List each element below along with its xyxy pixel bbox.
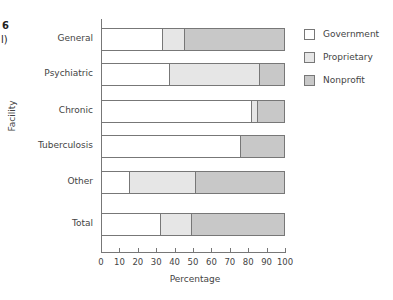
legend-item-proprietary: Proprietary: [304, 51, 379, 63]
x-axis-line: [101, 252, 286, 253]
x-tick-label: 100: [273, 257, 297, 267]
bar-segment-government: [102, 101, 251, 122]
bar-segment-government: [102, 136, 240, 157]
caption-fragment-2: l): [1, 34, 8, 45]
bar-segment-proprietary: [169, 64, 258, 85]
x-tick: [248, 248, 249, 252]
category-label: Psychiatric: [44, 68, 93, 78]
stacked-bar: [101, 213, 285, 236]
category-label: Other: [67, 176, 93, 186]
legend: Government Proprietary Nonprofit: [304, 28, 379, 97]
bar-segment-proprietary: [162, 29, 184, 50]
legend-label-nonprofit: Nonprofit: [323, 75, 365, 85]
legend-item-nonprofit: Nonprofit: [304, 74, 379, 86]
x-tick: [285, 248, 286, 252]
x-tick: [138, 248, 139, 252]
bar-segment-proprietary: [160, 214, 191, 235]
x-tick: [230, 248, 231, 252]
stacked-bar: [101, 63, 285, 86]
bar-segment-government: [102, 172, 129, 193]
legend-label-government: Government: [323, 29, 379, 39]
y-axis-line: [101, 19, 102, 252]
bar-segment-nonprofit: [191, 214, 284, 235]
legend-swatch-government: [304, 29, 315, 40]
x-tick: [119, 248, 120, 252]
bar-segment-government: [102, 29, 162, 50]
caption-fragment-1: 6: [2, 20, 9, 31]
x-tick: [156, 248, 157, 252]
x-tick: [267, 248, 268, 252]
bar-segment-government: [102, 214, 160, 235]
stacked-bar: [101, 171, 285, 194]
x-axis-label: Percentage: [160, 274, 230, 284]
x-tick: [211, 248, 212, 252]
legend-swatch-proprietary: [304, 52, 315, 63]
category-label: Chronic: [59, 105, 93, 115]
category-label: Total: [72, 218, 93, 228]
stacked-bar: [101, 100, 285, 123]
bar-segment-government: [102, 64, 169, 85]
category-label: Tuberculosis: [38, 140, 93, 150]
bar-segment-nonprofit: [195, 172, 284, 193]
bar-segment-nonprofit: [240, 136, 284, 157]
bar-segment-proprietary: [129, 172, 195, 193]
legend-swatch-nonprofit: [304, 75, 315, 86]
stacked-bar: [101, 28, 285, 51]
y-axis-label: Facility: [7, 96, 17, 136]
bar-segment-nonprofit: [184, 29, 284, 50]
category-label: General: [58, 33, 93, 43]
stacked-bar: [101, 135, 285, 158]
legend-label-proprietary: Proprietary: [323, 52, 373, 62]
bar-segment-nonprofit: [257, 101, 284, 122]
x-tick: [175, 248, 176, 252]
legend-item-government: Government: [304, 28, 379, 40]
bar-segment-nonprofit: [259, 64, 284, 85]
x-tick: [193, 248, 194, 252]
